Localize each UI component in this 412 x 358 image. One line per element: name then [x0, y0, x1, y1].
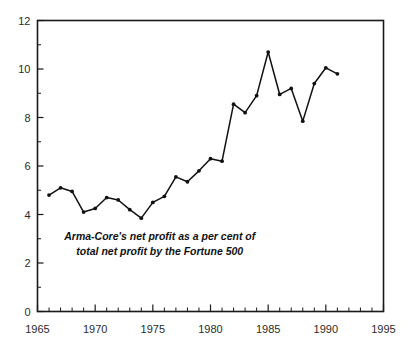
data-point: [209, 157, 213, 161]
chart-container: 024681012 1965197019751980198519901995 A…: [0, 0, 412, 358]
data-point: [139, 216, 143, 220]
chart-annotation-line: Arma-Core's net profit as a per cent of: [63, 230, 256, 242]
data-point: [59, 186, 63, 190]
x-tick-label: 1975: [141, 323, 165, 335]
data-point: [116, 198, 120, 202]
data-point: [232, 102, 236, 106]
y-tick-label: 6: [24, 160, 30, 172]
data-point: [105, 196, 109, 200]
data-point: [186, 180, 190, 184]
data-point: [243, 111, 247, 115]
data-point: [151, 200, 155, 204]
data-point: [220, 159, 224, 163]
line-chart: 024681012 1965197019751980198519901995 A…: [0, 0, 412, 358]
chart-annotation-line: total net profit by the Fortune 500: [76, 245, 243, 257]
data-point: [278, 93, 282, 97]
data-point: [174, 175, 178, 179]
x-tick-label: 1980: [198, 323, 222, 335]
y-tick-label: 0: [24, 306, 30, 318]
data-point: [162, 194, 166, 198]
data-point: [335, 72, 339, 76]
x-tick-label: 1985: [256, 323, 280, 335]
data-point: [266, 50, 270, 54]
data-point: [255, 94, 259, 98]
y-tick-label: 12: [18, 15, 30, 27]
data-point: [197, 169, 201, 173]
y-tick-label: 8: [24, 112, 30, 124]
x-tick-label: 1995: [371, 323, 395, 335]
data-point: [301, 119, 305, 123]
data-point: [93, 207, 97, 211]
y-tick-label: 10: [18, 63, 30, 75]
y-tick-label: 4: [24, 209, 30, 221]
data-point: [128, 208, 132, 212]
x-tick-label: 1965: [25, 323, 49, 335]
x-tick-label: 1970: [83, 323, 107, 335]
data-point: [289, 87, 293, 91]
data-point: [70, 190, 74, 194]
chart-background: [0, 0, 412, 358]
data-point: [82, 210, 86, 214]
data-point: [324, 66, 328, 70]
x-tick-label: 1990: [314, 323, 338, 335]
data-point: [312, 82, 316, 86]
y-tick-label: 2: [24, 257, 30, 269]
data-point: [47, 193, 51, 197]
